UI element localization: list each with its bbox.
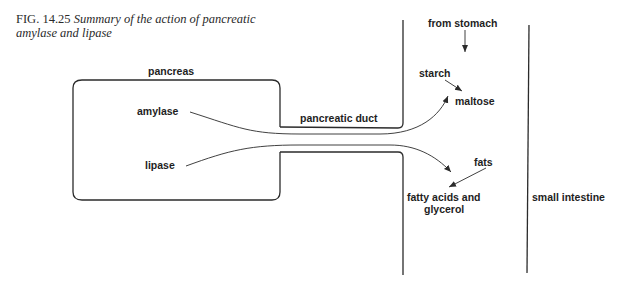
starch-label: starch	[419, 67, 451, 79]
maltose-label: maltose	[455, 95, 495, 107]
lipase-arrow	[186, 145, 451, 172]
intestine-right-wall	[527, 25, 529, 273]
lipase-label: lipase	[145, 159, 175, 171]
fats-label: fats	[474, 156, 493, 168]
diagram-canvas	[0, 0, 617, 291]
fatty-acids-label-line2: glycerol	[424, 203, 464, 215]
pancreas-label: pancreas	[148, 65, 194, 77]
amylase-label: amylase	[137, 105, 178, 117]
fatty-acids-label-line1: fatty acids and	[407, 191, 481, 203]
pancreas-outline	[73, 80, 280, 200]
fats-to-fatty-acids-arrow	[449, 168, 486, 187]
duct-lower-wall	[280, 152, 403, 275]
pancreatic-duct-label: pancreatic duct	[300, 112, 378, 124]
starch-to-maltose-arrow	[445, 80, 462, 91]
from-stomach-label: from stomach	[428, 17, 497, 29]
small-intestine-label: small intestine	[532, 191, 605, 203]
